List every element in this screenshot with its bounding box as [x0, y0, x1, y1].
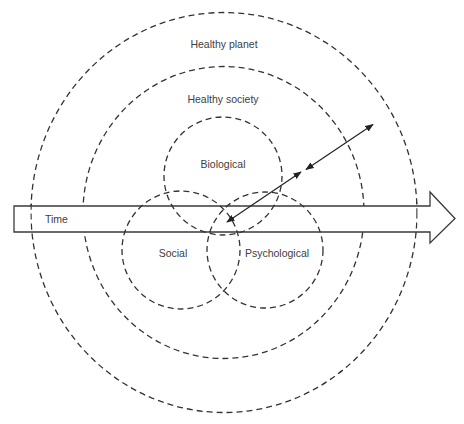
psychological-label: Psychological [245, 247, 309, 259]
health-spheres-diagram: Healthy planet Healthy society Biologica… [0, 0, 464, 424]
biological-label: Biological [201, 158, 246, 170]
social-label: Social [159, 247, 188, 259]
healthy-planet-label: Healthy planet [190, 38, 257, 50]
time-label: Time [45, 213, 68, 225]
healthy-society-label: Healthy society [187, 93, 259, 105]
